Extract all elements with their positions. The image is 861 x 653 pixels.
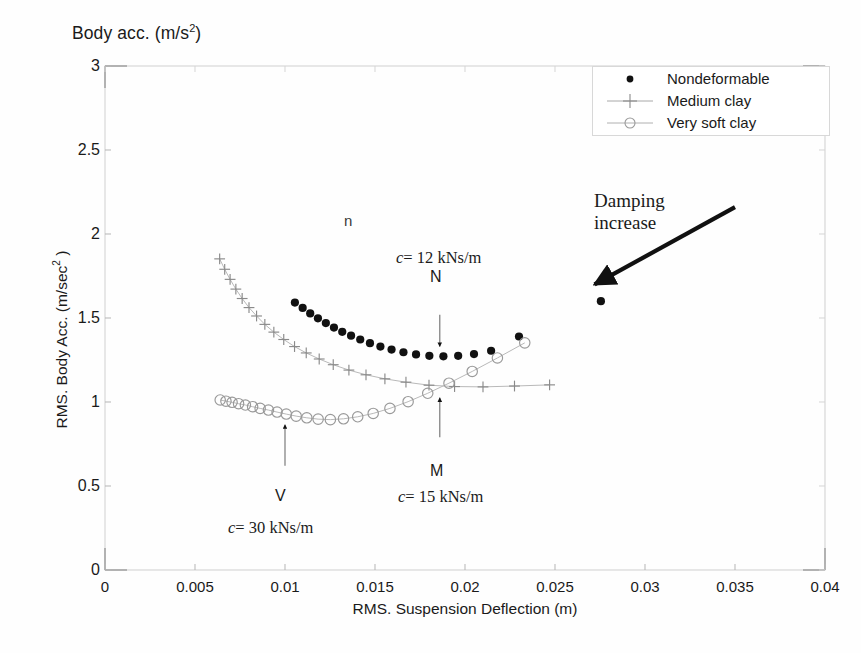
data-series-group — [214, 253, 605, 424]
legend-label: Medium clay — [667, 90, 751, 111]
legend-item-medium-clay: Medium clay — [593, 90, 829, 111]
legend: Nondeformable Medium clay Very soft clay — [592, 66, 830, 136]
filled-dot-icon — [601, 68, 659, 89]
annotation-n-value: c= 12 kNs/m — [396, 248, 481, 268]
annotation-damping: Damping increase — [594, 190, 665, 235]
annotation-damping-line2: increase — [594, 212, 665, 234]
legend-label: Very soft clay — [667, 112, 756, 133]
annotation-m-label: M — [430, 462, 443, 480]
legend-label: Nondeformable — [667, 68, 770, 89]
figure-panel: Body acc. (m/s2) RMS. Body Acc. (m/sec2 … — [0, 0, 861, 653]
annotation-v-value: c= 30 kNs/m — [228, 518, 313, 538]
legend-item-nondeformable: Nondeformable — [593, 68, 829, 89]
stray-n-glyph: n — [344, 212, 352, 229]
legend-item-very-soft-clay: Very soft clay — [593, 112, 829, 133]
annotation-n-label: N — [430, 268, 442, 286]
annotation-m-value: c= 15 kNs/m — [398, 487, 483, 507]
annotation-damping-line1: Damping — [594, 190, 665, 212]
annotation-n-text: = 12 kNs/m — [403, 248, 481, 267]
cropped-footer-caption — [55, 630, 855, 650]
annotation-v-label: V — [275, 487, 286, 505]
plus-marker-icon — [601, 90, 659, 111]
annotation-v-text: = 30 kNs/m — [235, 518, 313, 537]
annotation-m-text: = 15 kNs/m — [405, 487, 483, 506]
circle-marker-icon — [601, 112, 659, 133]
